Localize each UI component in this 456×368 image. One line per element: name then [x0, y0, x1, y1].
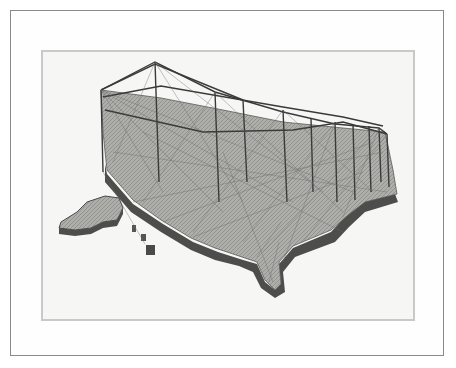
network-map-graphic — [43, 52, 415, 321]
us-land — [101, 90, 397, 290]
map-panel — [41, 50, 415, 321]
